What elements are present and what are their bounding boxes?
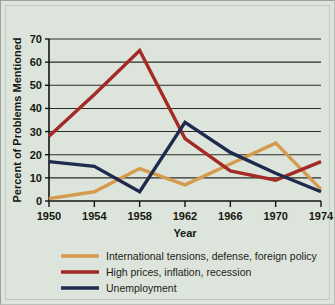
x-tick-label-1970: 1970 [263,210,287,222]
series-group [49,51,321,199]
series-line-0 [49,143,321,199]
series-line-2 [49,122,321,191]
y-tick-label-10: 10 [30,172,42,184]
x-tick-label-1962: 1962 [173,210,197,222]
chart-legend: International tensions, defense, foreign… [61,250,317,294]
x-tick-label-1974: 1974 [309,210,334,222]
x-tick-label-1966: 1966 [218,210,242,222]
x-tick-label-1950: 1950 [37,210,61,222]
chart-figure: 0102030405060701950195419581962196619701… [0,0,335,305]
y-tick-label-60: 60 [30,56,42,68]
x-ticks: 1950195419581962196619701974 [37,201,334,222]
legend-label-0: International tensions, defense, foreign… [106,250,317,262]
y-tick-label-0: 0 [36,195,42,207]
x-tick-label-1958: 1958 [127,210,151,222]
series-line-1 [49,51,321,181]
legend-label-1: High prices, inflation, recession [106,266,251,278]
x-tick-label-1954: 1954 [82,210,107,222]
y-tick-label-40: 40 [30,102,42,114]
y-tick-label-20: 20 [30,149,42,161]
legend-label-2: Unemployment [106,282,177,294]
line-chart: 0102030405060701950195419581962196619701… [1,1,335,305]
y-tick-label-70: 70 [30,33,42,45]
y-tick-label-30: 30 [30,126,42,138]
x-axis-title: Year [173,227,197,239]
y-tick-label-50: 50 [30,79,42,91]
y-axis-title: Percent of Problems Mentioned [11,37,23,202]
